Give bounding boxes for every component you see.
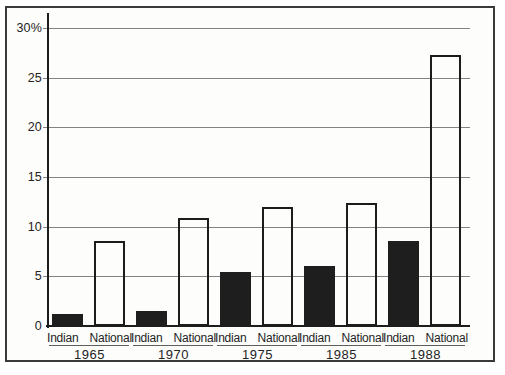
y-axis-line [47, 13, 49, 328]
bar-indian-1975 [220, 272, 251, 326]
group-label-1975: IndianNational [215, 331, 300, 345]
x-axis-baseline [46, 325, 470, 327]
gridline-20 [43, 127, 470, 128]
gridline-30 [43, 28, 470, 29]
series-label-indian-1988: Indian [383, 331, 415, 345]
bar-national-1985 [346, 203, 377, 326]
bar-indian-1970 [136, 311, 167, 326]
gridline-15 [43, 177, 470, 178]
ytick-label-30: 30% [5, 20, 42, 36]
series-label-national-1988: National [426, 331, 468, 345]
ytick-label-5: 5 [5, 268, 42, 284]
series-label-national-1970: National [174, 331, 216, 345]
group-underline-1965 [49, 345, 129, 346]
group-label-1988: IndianNational [383, 331, 468, 345]
series-label-national-1965: National [90, 331, 132, 345]
ytick-label-0: 0 [5, 318, 42, 334]
series-label-indian-1985: Indian [299, 331, 331, 345]
group-underline-1988 [385, 345, 465, 346]
ytick-label-20: 20 [5, 119, 42, 135]
year-label-1970: 1970 [131, 347, 216, 362]
year-label-1988: 1988 [383, 347, 468, 362]
ytick-label-25: 25 [5, 70, 42, 86]
ytick-label-15: 15 [5, 169, 42, 185]
gridline-25 [43, 78, 470, 79]
series-label-national-1985: National [342, 331, 384, 345]
ytick-label-10: 10 [5, 219, 42, 235]
group-underline-1970 [133, 345, 213, 346]
series-label-indian-1970: Indian [131, 331, 163, 345]
bar-indian-1988 [388, 241, 419, 326]
figure-canvas: 051015202530%IndianNational1965IndianNat… [0, 0, 505, 375]
bar-indian-1985 [304, 266, 335, 326]
gridline-10 [43, 227, 470, 228]
series-label-national-1975: National [258, 331, 300, 345]
series-label-indian-1975: Indian [215, 331, 247, 345]
bar-national-1970 [178, 218, 209, 326]
group-underline-1985 [301, 345, 381, 346]
bar-national-1975 [262, 207, 293, 326]
bar-national-1965 [94, 241, 125, 326]
group-label-1985: IndianNational [299, 331, 384, 345]
group-underline-1975 [217, 345, 297, 346]
group-label-1965: IndianNational [47, 331, 132, 345]
year-label-1965: 1965 [47, 347, 132, 362]
series-label-indian-1965: Indian [47, 331, 79, 345]
year-label-1975: 1975 [215, 347, 300, 362]
bar-national-1988 [430, 55, 461, 326]
year-label-1985: 1985 [299, 347, 384, 362]
group-label-1970: IndianNational [131, 331, 216, 345]
